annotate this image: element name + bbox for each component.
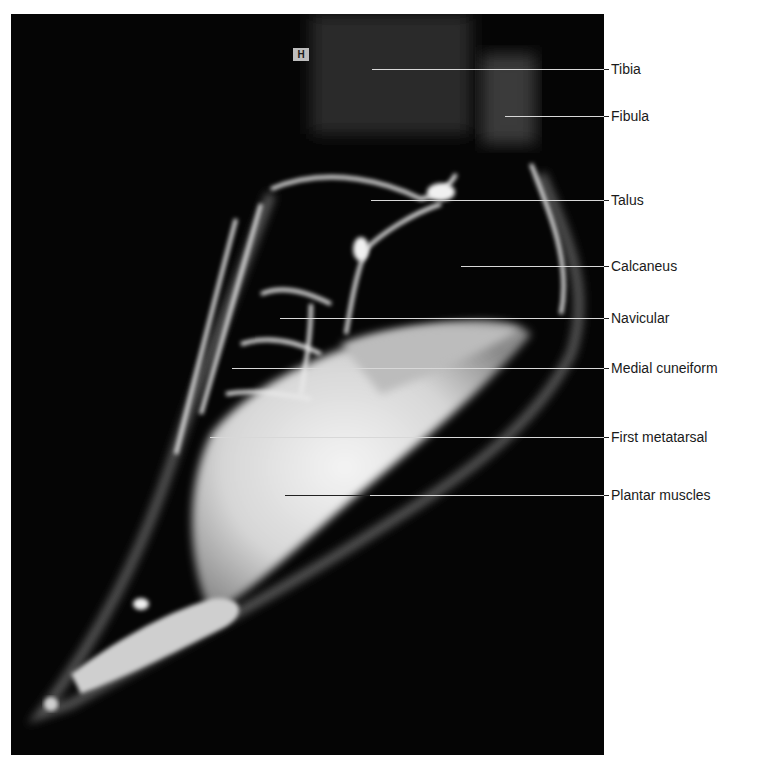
label-talus: Talus (611, 192, 644, 208)
leader-line-first-metatarsal (210, 437, 604, 438)
mri-foot-scan (11, 14, 604, 755)
leader-line-medial-cuneiform-outer (604, 368, 609, 369)
leader-line-plantar-muscles-dark (285, 495, 370, 496)
mri-figure: H Tibia Fibula Talus Calcaneus Navicular… (0, 0, 761, 761)
leader-line-talus-outer (604, 200, 609, 201)
label-first-metatarsal: First metatarsal (611, 429, 707, 445)
leader-line-first-metatarsal-outer (604, 437, 609, 438)
leader-line-talus (371, 200, 604, 201)
orientation-marker: H (293, 48, 309, 61)
mri-sagittal-foot-image: H (11, 14, 604, 755)
label-fibula: Fibula (611, 108, 649, 124)
leader-line-medial-cuneiform (232, 368, 604, 369)
leader-line-calcaneus (461, 266, 604, 267)
leader-line-navicular (280, 318, 604, 319)
label-plantar-muscles: Plantar muscles (611, 487, 711, 503)
leader-line-tibia (372, 69, 604, 70)
leader-line-fibula-outer (604, 116, 609, 117)
leader-line-plantar-muscles (370, 495, 604, 496)
label-tibia: Tibia (611, 61, 641, 77)
leader-line-tibia-outer (604, 69, 609, 70)
label-navicular: Navicular (611, 310, 669, 326)
leader-line-navicular-outer (604, 318, 609, 319)
label-medial-cuneiform: Medial cuneiform (611, 360, 718, 376)
leader-line-calcaneus-outer (604, 266, 609, 267)
label-calcaneus: Calcaneus (611, 258, 677, 274)
leader-line-plantar-muscles-outer (604, 495, 609, 496)
leader-line-fibula (505, 116, 604, 117)
